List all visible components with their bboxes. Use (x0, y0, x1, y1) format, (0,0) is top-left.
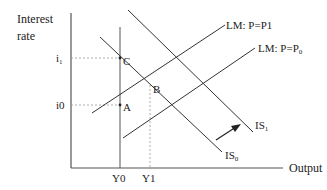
y1-label: Y1 (142, 172, 155, 184)
point-a-label: A (123, 101, 131, 113)
lm-curve-p0 (123, 48, 255, 138)
shift-arrow-icon (216, 124, 241, 140)
point-a-dot (119, 104, 122, 107)
x-axis-label: Output (289, 161, 323, 175)
lm-curve-p1 (92, 25, 225, 113)
i0-label: i0 (56, 99, 65, 111)
lm-p1-label: LM: P=P1 (226, 19, 272, 31)
y0-label: Y0 (112, 172, 126, 184)
lm-p0-label: LM: P=P0 (258, 42, 303, 56)
point-b-label: B (153, 83, 160, 95)
point-c-label: C (123, 55, 130, 67)
is1-label: IS1 (255, 119, 269, 133)
y-axis-label-line1: Interest (17, 12, 54, 26)
i1-label: i1 (56, 52, 63, 66)
is-curve-0 (100, 37, 222, 152)
point-c-dot (119, 57, 122, 60)
y-axis-label-line2: rate (17, 29, 35, 43)
is0-label: IS0 (225, 149, 239, 163)
is-lm-diagram: Interest rate Output C A B i1 i0 Y0 Y1 L… (0, 0, 327, 190)
